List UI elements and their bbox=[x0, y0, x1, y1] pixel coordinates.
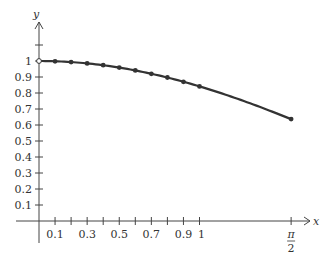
ticks bbox=[35, 45, 291, 225]
x-tick-label: 0.3 bbox=[78, 228, 96, 241]
data-point bbox=[53, 59, 58, 64]
y-tick-label: 0.7 bbox=[15, 103, 33, 116]
x-tick-label: 1 bbox=[198, 228, 205, 241]
data-point bbox=[149, 71, 154, 76]
x-axis-label: x bbox=[313, 215, 320, 228]
y-tick-label: 0.6 bbox=[15, 119, 33, 132]
data-point bbox=[181, 79, 186, 84]
data-point bbox=[197, 84, 202, 89]
data-point bbox=[117, 65, 122, 70]
function-curve bbox=[39, 61, 291, 119]
y-axis-label: y bbox=[32, 8, 40, 21]
pi-half-numerator: π bbox=[286, 228, 295, 241]
tick-labels: 0.10.30.50.70.91π20.10.20.30.40.50.60.70… bbox=[15, 55, 296, 255]
y-tick-label: 0.8 bbox=[15, 87, 33, 100]
data-series bbox=[37, 59, 294, 122]
x-tick-label: 0.9 bbox=[175, 228, 193, 241]
data-point bbox=[289, 117, 294, 122]
y-tick-label: 0.3 bbox=[15, 167, 33, 180]
y-tick-label: 0.9 bbox=[15, 71, 33, 84]
y-tick-label: 0.1 bbox=[15, 199, 33, 212]
pi-half-denominator: 2 bbox=[288, 242, 295, 255]
y-tick-label: 0.5 bbox=[15, 135, 33, 148]
data-point bbox=[69, 60, 74, 65]
x-tick-label: 0.5 bbox=[111, 228, 129, 241]
x-tick-label: 0.7 bbox=[143, 228, 161, 241]
data-point bbox=[165, 75, 170, 80]
chart: xy 0.10.30.50.70.91π20.10.20.30.40.50.60… bbox=[0, 0, 334, 263]
data-point bbox=[101, 63, 106, 68]
y-tick-label: 0.4 bbox=[15, 151, 33, 164]
data-point bbox=[133, 68, 138, 73]
data-point bbox=[85, 61, 90, 66]
open-point bbox=[37, 59, 42, 64]
y-tick-label: 1 bbox=[25, 55, 32, 68]
y-tick-label: 0.2 bbox=[15, 183, 33, 196]
x-tick-label: 0.1 bbox=[46, 228, 64, 241]
axes: xy bbox=[16, 8, 320, 243]
